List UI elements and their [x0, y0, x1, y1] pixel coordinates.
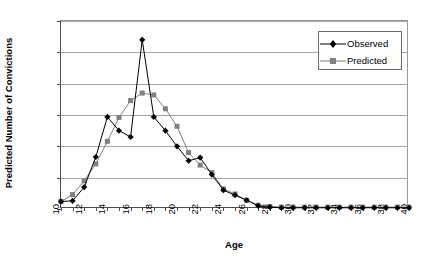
data-point [151, 92, 156, 97]
data-point [117, 115, 122, 120]
data-point [128, 98, 133, 103]
data-point [139, 37, 145, 43]
data-point [70, 192, 75, 197]
legend-label-observed: Observed [347, 38, 388, 49]
x-axis-title: Age [60, 239, 408, 250]
legend-item-observed: Observed [319, 35, 401, 52]
data-point [197, 155, 203, 161]
data-point [105, 139, 110, 144]
data-point [140, 91, 145, 96]
legend-swatch-predicted [319, 54, 347, 68]
legend-item-predicted: Predicted [319, 52, 401, 69]
data-point [198, 163, 203, 168]
legend-label-predicted: Predicted [347, 55, 387, 66]
chart-figure: Predicted Number of Convictions Age 00.0… [0, 0, 428, 262]
legend-swatch-observed [319, 37, 347, 51]
data-point [128, 134, 134, 140]
data-point [175, 124, 180, 129]
y-axis-title: Predicted Number of Convictions [2, 4, 16, 222]
data-point [163, 106, 168, 111]
data-point [186, 150, 191, 155]
series-line-predicted [61, 93, 409, 207]
x-tick-label: 10 [51, 204, 61, 228]
chart-legend: Observed Predicted [318, 31, 402, 70]
